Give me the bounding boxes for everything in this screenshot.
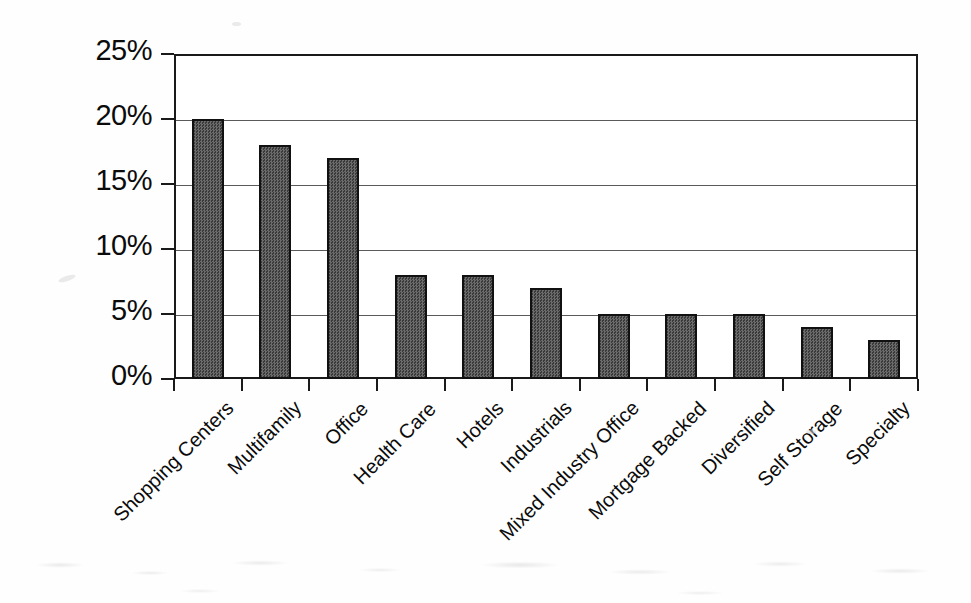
gridline xyxy=(176,250,916,251)
x-tick-mark xyxy=(444,379,446,391)
scan-artifact-band xyxy=(0,545,971,603)
y-tick-label: 20% xyxy=(0,99,152,132)
y-tick-mark xyxy=(161,248,174,250)
x-axis-label: Mortgage Backed xyxy=(584,397,711,524)
x-tick-mark xyxy=(308,379,310,391)
x-tick-mark xyxy=(376,379,378,391)
x-axis-label: Office xyxy=(320,397,373,450)
y-tick-mark xyxy=(161,313,174,315)
gridline xyxy=(176,185,916,186)
y-tick-label: 25% xyxy=(0,34,152,67)
gridline xyxy=(176,120,916,121)
y-tick-label: 0% xyxy=(0,359,152,392)
chart-page: 0%5%10%15%20%25% Shopping CentersMultifa… xyxy=(0,0,971,603)
x-axis-label: Hotels xyxy=(452,397,508,453)
gridline xyxy=(176,315,916,316)
x-tick-mark xyxy=(782,379,784,391)
y-tick-mark xyxy=(161,183,174,185)
plot-area xyxy=(174,54,918,379)
scan-speck xyxy=(58,273,77,283)
y-tick-label: 10% xyxy=(0,229,152,262)
x-tick-mark xyxy=(646,379,648,391)
y-tick-label: 5% xyxy=(0,294,152,327)
x-tick-mark xyxy=(917,379,919,391)
x-axis-label: Shopping Centers xyxy=(109,397,238,526)
x-tick-mark xyxy=(511,379,513,391)
scan-speck xyxy=(232,22,241,26)
y-tick-mark xyxy=(161,118,174,120)
y-tick-mark xyxy=(161,53,174,55)
x-tick-mark xyxy=(241,379,243,391)
x-tick-mark xyxy=(714,379,716,391)
y-tick-label: 15% xyxy=(0,164,152,197)
x-tick-mark xyxy=(173,379,175,391)
x-axis-label: Specialty xyxy=(841,397,915,471)
x-tick-mark xyxy=(579,379,581,391)
scan-speck xyxy=(806,430,816,434)
x-tick-mark xyxy=(849,379,851,391)
